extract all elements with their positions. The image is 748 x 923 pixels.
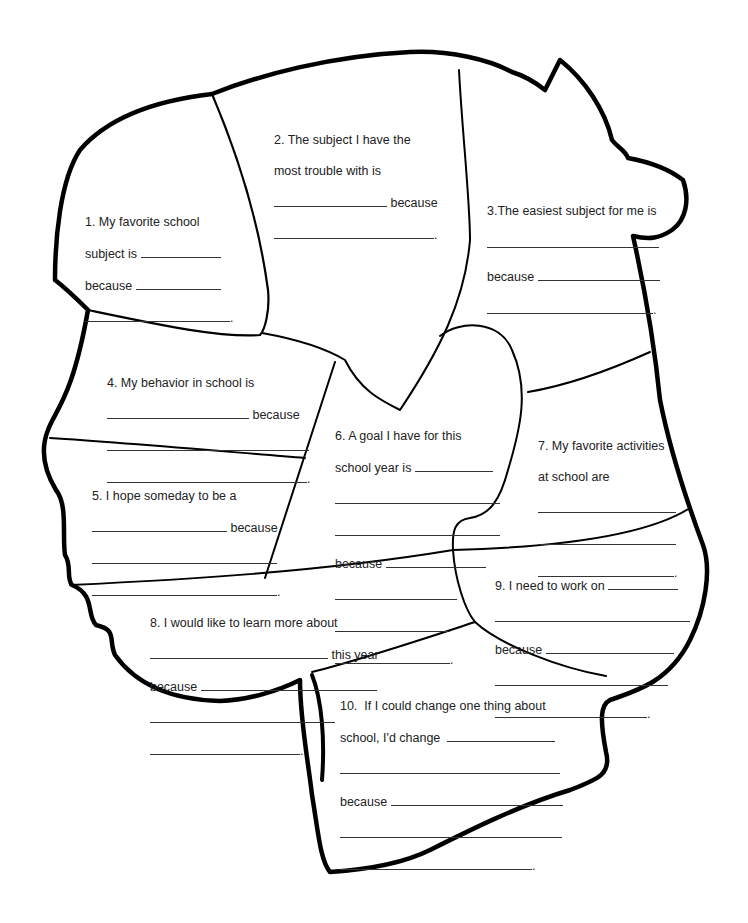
answer-blank[interactable]	[150, 743, 300, 755]
answer-blank[interactable]	[415, 460, 493, 472]
prompt-5: 5. I hope someday to be a because .	[85, 473, 280, 600]
answer-blank[interactable]	[495, 610, 690, 622]
answer-blank[interactable]	[274, 227, 434, 239]
answer-blank[interactable]	[386, 556, 486, 568]
answer-blank[interactable]	[546, 642, 674, 654]
prompt-1: 1. My favorite school subject is because…	[78, 199, 233, 326]
answer-blank[interactable]	[136, 278, 221, 290]
answer-blank[interactable]	[274, 195, 387, 207]
answer-blank[interactable]	[150, 647, 328, 659]
answer-blank[interactable]	[85, 310, 230, 322]
answer-blank[interactable]	[150, 711, 335, 723]
answer-blank[interactable]	[107, 439, 309, 451]
prompt-3: 3.The easiest subject for me is because …	[480, 186, 660, 318]
answer-blank[interactable]	[487, 302, 653, 314]
prompt-10: 10. If I could change one thing about sc…	[333, 683, 563, 874]
prompt-1-text: 1. My favorite school	[85, 215, 200, 229]
prompt-4: 4. My behavior in school is because .	[100, 360, 310, 487]
answer-blank[interactable]	[92, 584, 277, 596]
answer-blank[interactable]	[107, 407, 249, 419]
answer-blank[interactable]	[538, 269, 660, 281]
answer-blank[interactable]	[340, 858, 532, 870]
answer-blank[interactable]	[538, 533, 676, 545]
answer-blank[interactable]	[335, 588, 457, 600]
answer-blank[interactable]	[335, 524, 500, 536]
divider-3-7	[528, 352, 650, 392]
answer-blank[interactable]	[340, 762, 560, 774]
prompt-2: 2. The subject I have the most trouble w…	[267, 117, 438, 243]
answer-blank[interactable]	[608, 578, 678, 590]
answer-blank[interactable]	[92, 552, 277, 564]
prompt-7: 7. My favorite activities at school are …	[531, 423, 677, 581]
answer-blank[interactable]	[92, 520, 227, 532]
answer-blank[interactable]	[141, 246, 221, 258]
answer-blank[interactable]	[447, 730, 555, 742]
answer-blank[interactable]	[335, 492, 500, 504]
answer-blank[interactable]	[391, 794, 563, 806]
answer-blank[interactable]	[538, 501, 676, 513]
answer-blank[interactable]	[487, 236, 659, 248]
answer-blank[interactable]	[340, 826, 562, 838]
